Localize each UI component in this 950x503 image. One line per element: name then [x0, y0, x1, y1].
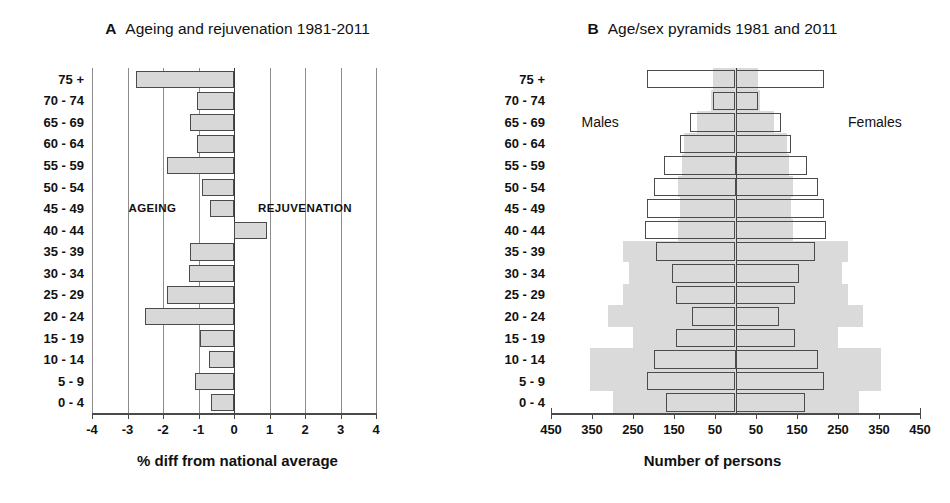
panel-a-letter: A [105, 20, 116, 37]
category-label: 75 + [58, 72, 84, 85]
pyramid-row [551, 348, 920, 370]
pyramid-row [551, 284, 920, 306]
x-tick-label: 150 [663, 422, 685, 437]
pyramid-bar-male-2011[interactable] [654, 350, 736, 369]
pyramid-bar-female-2011[interactable] [736, 393, 806, 412]
x-tick-label: 450 [540, 422, 562, 437]
category-label: 65 - 69 [44, 115, 84, 128]
bar[interactable] [195, 373, 234, 390]
category-label: 35 - 39 [505, 245, 545, 258]
pyramid-row [551, 391, 920, 413]
bar-row [92, 262, 376, 284]
bar[interactable] [136, 71, 234, 88]
pyramid-bar-female-2011[interactable] [736, 350, 818, 369]
bar[interactable] [200, 330, 234, 347]
x-tick-label: 250 [622, 422, 644, 437]
category-label: 45 - 49 [44, 202, 84, 215]
panel-a-plot: AGEINGREJUVENATION [92, 68, 376, 413]
axis-tick [270, 413, 271, 419]
pyramid-bar-female-2011[interactable] [736, 178, 818, 197]
bar-row [92, 176, 376, 198]
pyramid-row [551, 197, 920, 219]
category-label: 15 - 19 [44, 331, 84, 344]
pyramid-bar-male-2011[interactable] [676, 286, 735, 305]
pyramid-row [551, 68, 920, 90]
x-tick-label: 250 [827, 422, 849, 437]
axis-tick [163, 413, 164, 419]
pyramid-bar-male-2011[interactable] [680, 135, 735, 154]
bar[interactable] [190, 114, 234, 131]
bar-row [92, 154, 376, 176]
pyramid-bar-female-2011[interactable] [736, 113, 781, 132]
bar-row [92, 219, 376, 241]
bar[interactable] [234, 222, 267, 239]
pyramid-row [551, 305, 920, 327]
pyramid-bar-male-2011[interactable] [692, 307, 735, 326]
pyramid-bar-female-2011[interactable] [736, 92, 759, 111]
pyramid-bar-male-2011[interactable] [645, 221, 735, 240]
category-label: 45 - 49 [505, 202, 545, 215]
pyramid-bar-male-2011[interactable] [672, 264, 736, 283]
pyramid-bar-female-2011[interactable] [736, 221, 826, 240]
bar[interactable] [167, 286, 234, 303]
plot-annotation: AGEING [128, 202, 176, 214]
bar-row [92, 241, 376, 263]
bar[interactable] [210, 200, 234, 217]
pyramid-bar-female-2011[interactable] [736, 156, 808, 175]
bar[interactable] [189, 265, 234, 282]
bar-row [92, 370, 376, 392]
panel-b-title-text: Age/sex pyramids 1981 and 2011 [608, 20, 838, 37]
pyramid-bar-female-2011[interactable] [736, 286, 795, 305]
bar[interactable] [209, 351, 234, 368]
pyramid-bar-male-2011[interactable] [690, 113, 735, 132]
panel-a-axis-title: % diff from national average [0, 452, 475, 469]
category-label: 60 - 64 [505, 137, 545, 150]
category-label: 25 - 29 [44, 288, 84, 301]
pyramid-bar-female-2011[interactable] [736, 372, 824, 391]
axis-tick [376, 413, 377, 419]
bar-row [92, 133, 376, 155]
pyramid-bar-female-2011[interactable] [736, 70, 824, 89]
pyramid-bar-male-2011[interactable] [654, 178, 736, 197]
pyramid-bar-female-2011[interactable] [736, 264, 800, 283]
panel-b-axis-title: Number of persons [475, 452, 950, 469]
pyramid-bar-male-2011[interactable] [647, 70, 735, 89]
pyramid-row [551, 154, 920, 176]
category-label: 60 - 64 [44, 137, 84, 150]
bar[interactable] [190, 243, 234, 260]
x-tick-label: -3 [122, 422, 134, 437]
pyramid-bar-male-2011[interactable] [676, 329, 735, 348]
pyramid-bar-female-2011[interactable] [736, 199, 824, 218]
pyramid-bar-male-2011[interactable] [647, 372, 735, 391]
pyramid-bar-male-2011[interactable] [647, 199, 735, 218]
pyramid-row [551, 370, 920, 392]
category-label: 10 - 14 [505, 353, 545, 366]
pyramid-row [551, 90, 920, 112]
pyramid-bar-female-2011[interactable] [736, 242, 816, 261]
x-tick-label: -4 [86, 422, 98, 437]
bar[interactable] [167, 157, 234, 174]
pyramid-bar-male-2011[interactable] [664, 156, 736, 175]
pyramid-bar-female-2011[interactable] [736, 329, 795, 348]
category-label: 15 - 19 [505, 331, 545, 344]
axis-end-cap [551, 408, 552, 414]
pyramid-bar-male-2011[interactable] [666, 393, 736, 412]
category-label: 0 - 4 [519, 396, 545, 409]
axis-tick [797, 413, 798, 419]
pyramid-bar-female-2011[interactable] [736, 135, 791, 154]
axis-tick [838, 413, 839, 419]
axis-tick [305, 413, 306, 419]
x-tick-label: 1 [266, 422, 273, 437]
pyramid-bar-male-2011[interactable] [713, 92, 736, 111]
pyramid-bar-male-2011[interactable] [656, 242, 736, 261]
category-label: 5 - 9 [519, 374, 545, 387]
bar[interactable] [145, 308, 234, 325]
bar[interactable] [197, 135, 234, 152]
bar[interactable] [211, 394, 234, 411]
pyramid-bar-female-2011[interactable] [736, 307, 779, 326]
bar[interactable] [202, 179, 234, 196]
males-label: Males [582, 114, 619, 130]
category-label: 30 - 34 [44, 266, 84, 279]
bar[interactable] [197, 92, 234, 109]
category-label: 75 + [519, 72, 545, 85]
